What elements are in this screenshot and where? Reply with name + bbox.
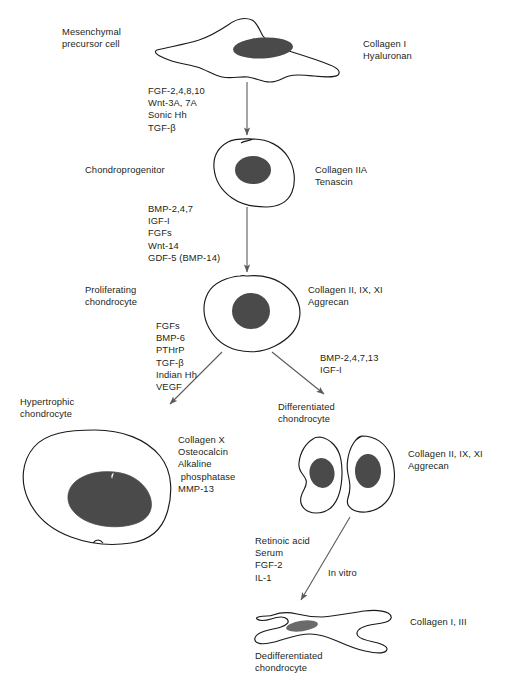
markers-label-differentiated: Collagen II, IX, XI Aggrecan bbox=[408, 448, 483, 472]
cell-mesenchymal bbox=[155, 19, 339, 82]
factors-label-differentiated-to-dedifferentiated: Retinoic acid Serum FGF-2 IL-1 bbox=[255, 535, 310, 584]
markers-label-dedifferentiated: Collagen I, III bbox=[410, 616, 467, 628]
cell-membrane bbox=[255, 610, 391, 652]
condition-label-in-vitro: In vitro bbox=[328, 567, 357, 579]
cell-hypertrophic-chondrocyte bbox=[23, 430, 171, 544]
markers-label-proliferating: Collagen II, IX, XI Aggrecan bbox=[308, 284, 383, 308]
cell-dedifferentiated-chondrocyte bbox=[255, 610, 391, 652]
factors-label-chondroprogenitor-to-proliferating: BMP-2,4,7 IGF-I FGFs Wnt-14 GDF-5 (BMP-1… bbox=[148, 203, 220, 264]
stage-label-proliferating: Proliferating chondrocyte bbox=[85, 284, 137, 308]
nucleus bbox=[232, 293, 270, 329]
stage-label-chondroprogenitor: Chondroprogenitor bbox=[85, 164, 165, 176]
factors-label-mesenchymal-to-chondroprogenitor: FGF-2,4,8,10 Wnt-3A, 7A Sonic Hh TGF-β bbox=[148, 85, 205, 134]
arrow-proliferating-to-differentiated bbox=[272, 352, 324, 394]
cell-proliferating-chondrocyte bbox=[204, 276, 300, 352]
stage-label-hypertrophic: Hypertrophic chondrocyte bbox=[20, 396, 74, 420]
stage-label-dedifferentiated: Dedifferentiated chondrocyte bbox=[255, 650, 323, 674]
cell-chondroprogenitor bbox=[214, 139, 294, 207]
cell-differentiated-chondrocyte-right bbox=[347, 436, 394, 512]
stage-label-mesenchymal: Mesenchymal precursor cell bbox=[62, 26, 121, 50]
nucleus bbox=[235, 156, 271, 184]
nucleus bbox=[355, 454, 381, 488]
markers-label-mesenchymal: Collagen I Hyaluronan bbox=[363, 38, 412, 62]
cell-differentiated-chondrocyte-left bbox=[299, 437, 342, 513]
markers-label-chondroprogenitor: Collagen IIA Tenascin bbox=[315, 164, 367, 188]
stage-label-differentiated: Differentiated chondrocyte bbox=[278, 401, 335, 425]
factors-label-proliferating-to-hypertrophic: FGFs BMP-6 PTHrP TGF-β Indian Hh VEGF bbox=[156, 320, 197, 393]
markers-label-hypertrophic: Collagen X Osteocalcin Alkaline phosphat… bbox=[178, 434, 235, 495]
factors-label-proliferating-to-differentiated: BMP-2,4,7,13 IGF-I bbox=[320, 352, 378, 376]
